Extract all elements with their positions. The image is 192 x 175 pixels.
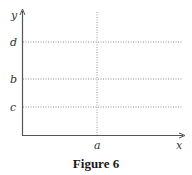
guide-label-b: b [10,73,17,86]
guide-label-d: d [10,36,17,49]
x-axis-label: x [176,139,183,152]
guide-label-c: c [10,101,16,114]
figure-diagram: y d b c a x Figure 6 [0,0,192,175]
y-axis-label: y [10,9,18,22]
guide-label-a: a [94,139,101,152]
figure-caption: Figure 6 [73,156,120,171]
